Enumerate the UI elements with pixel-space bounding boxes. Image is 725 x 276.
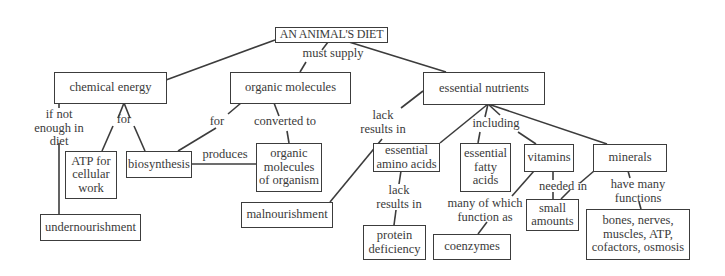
link-label-produces: produces: [198, 148, 252, 162]
protein-deficiency-node: protein deficiency: [363, 225, 426, 260]
chemical-energy-node: chemical energy: [54, 72, 167, 104]
biosynthesis-node: biosynthesis: [126, 151, 192, 178]
link-label-lack-results-in-amino: lack results in: [369, 184, 429, 211]
organic-molecules-of-organism-node: organic molecules of organism: [256, 143, 322, 192]
coenzymes-node: coenzymes: [433, 234, 511, 260]
link-label-have-many-functions: have many functions: [602, 178, 674, 205]
link-label-many-of-which: many of which function as: [440, 197, 530, 224]
minerals-node: minerals: [593, 144, 667, 172]
organic-molecules-node: organic molecules: [230, 72, 351, 104]
link-label-including: including: [468, 117, 524, 131]
link-label-converted-to: converted to: [245, 115, 325, 129]
link-label-if-not-enough: if not enough in diet: [30, 108, 88, 149]
undernourishment-node: undernourishment: [40, 214, 141, 241]
mineral-functions-node: bones, nerves, muscles, ATP, cofactors, …: [586, 209, 690, 260]
malnourishment-node: malnourishment: [241, 202, 333, 228]
essential-fatty-acids-node: essential fatty acids: [460, 143, 511, 192]
link-label-for-organic: for: [205, 115, 229, 129]
root-concept-node: AN ANIMAL'S DIET: [275, 27, 388, 43]
link-label-must-supply: must supply: [298, 47, 368, 61]
essential-nutrients-node: essential nutrients: [423, 72, 545, 105]
small-amounts-node: small amounts: [526, 199, 579, 231]
essential-amino-acids-node: essential amino acids: [373, 143, 440, 172]
link-label-lack-results-in: lack results in: [353, 109, 413, 136]
link-label-for-energy: for: [112, 113, 136, 127]
atp-cellular-work-node: ATP for cellular work: [65, 151, 117, 199]
link-label-needed-in: needed in: [533, 180, 593, 194]
vitamins-node: vitamins: [524, 144, 574, 172]
